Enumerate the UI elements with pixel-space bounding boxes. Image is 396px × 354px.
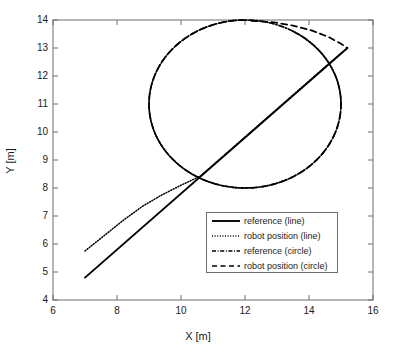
series-path bbox=[149, 20, 341, 188]
y-tick-label: 12 bbox=[22, 70, 48, 81]
legend-item: reference (line) bbox=[207, 213, 337, 228]
y-tick-label: 5 bbox=[22, 266, 48, 277]
x-tick-label: 10 bbox=[166, 305, 196, 316]
series-path bbox=[149, 20, 341, 188]
legend-item: robot position (circle) bbox=[207, 258, 337, 273]
x-tick-label: 6 bbox=[38, 305, 68, 316]
legend-swatch-dashdot bbox=[211, 244, 241, 258]
x-tick-label: 12 bbox=[230, 305, 260, 316]
legend-item: robot position (line) bbox=[207, 228, 337, 243]
y-tick-label: 6 bbox=[22, 238, 48, 249]
legend-item: reference (circle) bbox=[207, 243, 337, 258]
chart-legend: reference (line) robot position (line) r… bbox=[206, 212, 338, 273]
y-tick-label: 11 bbox=[22, 98, 48, 109]
y-tick-label: 8 bbox=[22, 182, 48, 193]
y-tick-label: 9 bbox=[22, 154, 48, 165]
legend-label: reference (line) bbox=[244, 216, 305, 226]
legend-swatch-dashed bbox=[211, 259, 241, 273]
x-axis-label: X [m] bbox=[0, 330, 396, 342]
legend-label: robot position (line) bbox=[244, 231, 321, 241]
y-tick-label: 14 bbox=[22, 14, 48, 25]
chart-figure: X [m] Y [m] 68101214164567891011121314 r… bbox=[0, 0, 396, 354]
legend-label: reference (circle) bbox=[244, 246, 312, 256]
x-tick-label: 8 bbox=[102, 305, 132, 316]
legend-swatch-dotted bbox=[211, 229, 241, 243]
legend-swatch-solid bbox=[211, 214, 241, 228]
x-tick-label: 14 bbox=[294, 305, 324, 316]
y-axis-label: Y [m] bbox=[4, 131, 16, 191]
y-tick-label: 7 bbox=[22, 210, 48, 221]
x-tick-label: 16 bbox=[358, 305, 388, 316]
y-tick-label: 10 bbox=[22, 126, 48, 137]
plot-canvas bbox=[0, 0, 396, 354]
legend-label: robot position (circle) bbox=[244, 261, 328, 271]
y-tick-label: 13 bbox=[22, 42, 48, 53]
y-tick-label: 4 bbox=[22, 294, 48, 305]
